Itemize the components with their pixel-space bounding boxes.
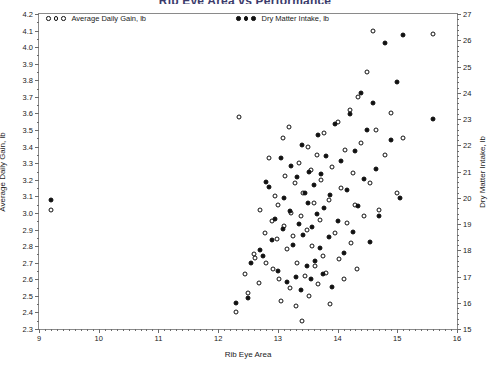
- y-tick-right-minor: [457, 151, 459, 152]
- data-point-dmi: [300, 232, 305, 237]
- x-tick-minor: [170, 329, 171, 331]
- data-point-adg: [243, 272, 248, 277]
- y-tick-left: [35, 113, 39, 114]
- data-point-dmi: [275, 269, 280, 274]
- x-tick-minor: [135, 329, 136, 331]
- plot-frame: 2.32.42.52.62.72.82.93.03.13.23.33.43.53…: [38, 13, 458, 330]
- y-tick-right-minor: [457, 240, 459, 241]
- y-tick-left: [35, 163, 39, 164]
- x-tick-minor: [326, 329, 327, 331]
- data-point-dmi: [335, 219, 340, 224]
- data-point-dmi: [272, 216, 277, 221]
- data-point-adg: [374, 128, 379, 133]
- x-tick-minor: [290, 329, 291, 331]
- data-point-adg: [292, 181, 297, 186]
- data-point-adg: [365, 70, 370, 75]
- y-tick-right: [457, 172, 461, 173]
- x-tick-label: 16: [453, 334, 461, 343]
- data-point-adg: [287, 285, 292, 290]
- x-tick-label: 14: [333, 334, 341, 343]
- y-tick-right: [457, 198, 461, 199]
- data-point-dmi: [246, 295, 251, 300]
- data-point-dmi: [332, 122, 337, 127]
- x-tick: [99, 329, 100, 333]
- data-point-dmi: [296, 222, 301, 227]
- y-tick-left-minor: [37, 205, 39, 206]
- data-point-dmi: [278, 156, 283, 161]
- x-tick: [39, 329, 40, 333]
- x-tick-label: 12: [214, 334, 222, 343]
- data-point-adg: [332, 230, 337, 235]
- x-tick: [278, 329, 279, 333]
- x-tick-minor: [421, 329, 422, 331]
- legend-label-dry-matter-intake: Dry Matter Intake, lb: [262, 14, 330, 23]
- chart-legend: Average Daily Gain, lb Dry Matter Intake…: [38, 13, 458, 27]
- data-point-dmi: [362, 177, 367, 182]
- legend-item-dry-matter-intake: Dry Matter Intake, lb: [236, 14, 329, 23]
- data-point-dmi: [329, 285, 334, 290]
- data-point-adg: [362, 214, 367, 219]
- y-tick-right: [457, 145, 461, 146]
- data-point-adg: [377, 207, 382, 212]
- data-point-dmi: [341, 250, 346, 255]
- data-point-dmi: [306, 169, 311, 174]
- y-tick-label-right: 25: [463, 62, 471, 71]
- y-tick-label-left: 3.8: [23, 76, 33, 85]
- data-point-adg: [314, 152, 319, 157]
- data-point-adg: [305, 144, 310, 149]
- y-tick-left-minor: [37, 55, 39, 56]
- data-point-dmi: [310, 224, 315, 229]
- x-tick-minor: [379, 329, 380, 331]
- data-point-dmi: [290, 243, 295, 248]
- x-tick-label: 10: [95, 334, 103, 343]
- y-tick-right-minor: [457, 135, 459, 136]
- data-point-adg: [302, 273, 307, 278]
- y-tick-left: [35, 246, 39, 247]
- x-tick-minor: [248, 329, 249, 331]
- data-point-adg: [383, 152, 388, 157]
- y-tick-label-left: 2.7: [23, 258, 33, 267]
- data-point-dmi: [344, 187, 349, 192]
- data-point-dmi: [302, 190, 307, 195]
- data-point-adg: [266, 156, 271, 161]
- y-tick-label-left: 3.6: [23, 109, 33, 118]
- data-point-adg: [371, 28, 376, 33]
- x-tick-minor: [266, 329, 267, 331]
- y-tick-left-minor: [37, 72, 39, 73]
- x-tick-minor: [111, 329, 112, 331]
- data-point-adg: [311, 201, 316, 206]
- data-point-adg: [336, 257, 341, 262]
- data-point-adg: [48, 207, 53, 212]
- x-tick-minor: [146, 329, 147, 331]
- data-point-adg: [354, 267, 359, 272]
- y-tick-left: [35, 147, 39, 148]
- y-tick-right: [457, 250, 461, 251]
- data-point-dmi: [398, 195, 403, 200]
- x-tick-label: 13: [274, 334, 282, 343]
- y-tick-right-minor: [457, 319, 459, 320]
- y-tick-right-minor: [457, 56, 459, 57]
- data-point-adg: [283, 174, 288, 179]
- x-tick-minor: [320, 329, 321, 331]
- y-tick-label-right: 16: [463, 298, 471, 307]
- y-tick-label-right: 27: [463, 10, 471, 19]
- y-tick-right-minor: [457, 130, 459, 131]
- y-tick-right-minor: [457, 193, 459, 194]
- data-point-dmi: [257, 248, 262, 253]
- open-circle-icon: [61, 16, 66, 21]
- y-tick-label-left: 4.2: [23, 10, 33, 19]
- y-tick-left-minor: [37, 172, 39, 173]
- y-tick-left-minor: [37, 122, 39, 123]
- y-tick-left: [35, 80, 39, 81]
- y-tick-left-minor: [37, 188, 39, 189]
- y-tick-right-minor: [457, 187, 459, 188]
- legend-label-average-daily-gain: Average Daily Gain, lb: [72, 14, 146, 23]
- x-tick-minor: [176, 329, 177, 331]
- y-tick-label-right: 17: [463, 272, 471, 281]
- data-point-adg: [275, 202, 280, 207]
- y-tick-label-left: 3.7: [23, 92, 33, 101]
- data-point-dmi: [316, 132, 321, 137]
- x-tick-minor: [242, 329, 243, 331]
- y-tick-right-minor: [457, 298, 459, 299]
- y-tick-left: [35, 312, 39, 313]
